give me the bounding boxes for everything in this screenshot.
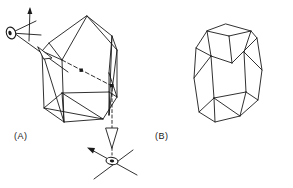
exit-ray-arrowhead-icon — [106, 128, 118, 148]
crystal-a-edge-apex-right — [87, 16, 117, 50]
crystal-b-bottom-inner-3 — [240, 92, 246, 116]
incoming-ray-arrowhead-icon — [38, 47, 52, 59]
internal-refracted-ray — [62, 60, 113, 87]
crystal-b-belt-upper-2 — [211, 56, 232, 63]
crystal-b-bottom-inner-2 — [214, 98, 240, 116]
crystal-b-right-upper-seam — [244, 31, 251, 52]
crystal-b-bottom-inner-1 — [214, 98, 215, 122]
crystal-b-belt-lower-2 — [214, 92, 246, 98]
eye-bottom-axis-arrowhead-icon — [87, 148, 95, 154]
crystal-b-belt-lower-3 — [246, 92, 258, 100]
internal-ray-end-marker — [110, 84, 113, 87]
crystal-b-left-upper-seam — [207, 31, 211, 56]
crystal-b-belt-upper-1 — [196, 48, 211, 56]
crystal-b-top-inner-left — [207, 31, 229, 36]
crystal-b-inner-vertical-a — [229, 36, 232, 63]
crystal-b-wireframe — [194, 24, 262, 122]
incoming-light-ray — [14, 33, 68, 72]
panel-b-label: (B) — [155, 131, 169, 141]
observer-eye-top — [5, 7, 41, 41]
internal-ray-dashed-line — [62, 60, 112, 86]
crystal-b-belt-lower-1 — [199, 98, 214, 112]
panel-a-group — [5, 7, 137, 179]
eye-top-axis-arrowhead-icon — [27, 7, 32, 14]
crystal-b-inner-vertical-c — [244, 52, 246, 92]
crystal-b-left-face-diag — [194, 56, 211, 78]
figure-container: (A) (B) — [0, 0, 293, 188]
internal-ray-node-marker — [80, 69, 83, 72]
crystal-ray-diagram — [0, 0, 293, 188]
panel-b-group — [194, 24, 262, 122]
crystal-b-top-inner-right — [229, 31, 251, 36]
panel-a-label: (A) — [14, 131, 28, 141]
crystal-a-edge-apex-front — [62, 16, 87, 60]
observer-eye-bottom — [87, 148, 137, 180]
crystal-a-edge-base-inner-diag — [62, 92, 109, 93]
crystal-b-inner-vertical-b — [211, 56, 214, 98]
